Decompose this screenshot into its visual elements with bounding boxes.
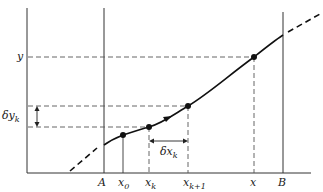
curve-main — [104, 35, 283, 145]
label-x0: x0 — [118, 177, 129, 191]
delta-x-arrowhead-left — [149, 139, 154, 144]
curve-extension-left — [70, 148, 97, 171]
label-xk1-sub: k+1 — [189, 182, 206, 191]
delta-y-arrowhead-up — [35, 106, 40, 111]
delta-x-arrowhead-right — [183, 139, 188, 144]
label-xk-sub: k — [151, 182, 156, 191]
label-delta-x: δxk — [160, 146, 178, 160]
label-x0-sub: 0 — [124, 182, 129, 191]
point-x — [251, 54, 257, 60]
diagram-canvas — [0, 0, 323, 192]
label-delta-y-text: δy — [2, 109, 15, 122]
point-xk — [146, 124, 152, 130]
point-xk1 — [185, 103, 191, 109]
label-delta-y-sub: k — [15, 115, 20, 124]
point-x0 — [120, 132, 126, 138]
label-delta-y: δyk — [2, 110, 20, 124]
label-delta-x-text: δx — [160, 145, 173, 158]
label-x: x — [250, 177, 256, 188]
curve-extension-right — [288, 14, 320, 32]
delta-y-arrowhead-down — [35, 122, 40, 127]
label-delta-x-sub: k — [173, 151, 178, 160]
label-xk: xk — [145, 177, 156, 191]
label-xk1: xk+1 — [183, 177, 206, 191]
label-y: y — [17, 51, 23, 62]
label-a: A — [98, 177, 106, 188]
label-b: B — [278, 177, 286, 188]
